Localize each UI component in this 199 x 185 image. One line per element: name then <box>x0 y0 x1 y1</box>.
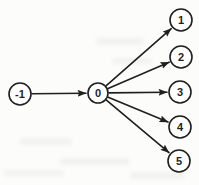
graph-node-4: 4 <box>169 116 191 138</box>
node-label-1: 1 <box>178 14 184 26</box>
edge-0-to-3 <box>109 92 167 93</box>
edge--1-to-0 <box>32 93 86 94</box>
graph-node-1: 1 <box>170 9 192 31</box>
graph-node-0: 0 <box>88 83 108 103</box>
node-label-3: 3 <box>177 86 183 98</box>
node-label-0: 0 <box>95 87 101 99</box>
scanned-diagram-page: -1012345 <box>0 0 199 185</box>
edge-0-to-5 <box>106 100 169 153</box>
graph-node--1: -1 <box>9 83 31 105</box>
node-label-2: 2 <box>178 51 184 63</box>
node-label--1: -1 <box>15 88 25 100</box>
graph-node-3: 3 <box>169 81 191 103</box>
node-label-4: 4 <box>177 121 184 133</box>
edge-0-to-1 <box>106 29 171 86</box>
directed-graph-diagram: -1012345 <box>0 0 199 185</box>
node-label-5: 5 <box>176 155 182 167</box>
graph-node-5: 5 <box>168 150 190 172</box>
graph-node-2: 2 <box>170 46 192 68</box>
